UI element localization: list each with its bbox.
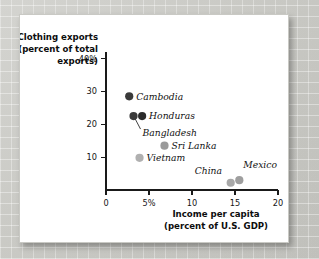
y-axis-title-line2: (percent of total (20, 44, 98, 54)
leader-line-bangladesh (135, 119, 141, 130)
data-point-labels: CambodiaBangladeshHondurasSri LankaVietn… (136, 91, 277, 176)
data-point-cambodia (125, 92, 133, 100)
x-tick-label: 0 (103, 198, 108, 208)
x-axis-ticks: 05%101520 (103, 190, 283, 208)
y-axis-title-line1: Clothing exports (20, 32, 98, 42)
y-axis-ticks: 10203040% (79, 54, 106, 163)
y-tick-label: 30 (87, 86, 97, 96)
data-point-china (227, 179, 235, 187)
data-point-label-vietnam: Vietnam (147, 152, 186, 163)
data-point-label-sri-lanka: Sri Lanka (171, 140, 216, 151)
scatter-plot: 10203040% 05%101520 CambodiaBangladeshHo… (20, 15, 288, 242)
data-point-vietnam (135, 154, 143, 162)
data-point-bangladesh (129, 112, 137, 120)
data-point-label-bangladesh: Bangladesh (142, 127, 197, 138)
data-point-label-china: China (195, 165, 222, 176)
data-point-label-mexico: Mexico (242, 159, 277, 170)
x-axis-title-line2: (percent of U.S. GDP) (164, 221, 268, 231)
data-point-sri-lanka (160, 142, 168, 150)
x-tick-label: 15 (230, 198, 240, 208)
data-point-label-honduras: Honduras (148, 110, 195, 121)
x-axis-title-line1: Income per capita (172, 209, 259, 219)
y-axis-title-line3: exports) (57, 56, 98, 66)
x-tick-label: 5% (143, 198, 156, 208)
data-point-mexico (235, 176, 243, 184)
data-point-label-cambodia: Cambodia (136, 91, 183, 102)
y-tick-label: 10 (87, 152, 97, 162)
leader-lines (135, 119, 141, 130)
figure-card: 10203040% 05%101520 CambodiaBangladeshHo… (19, 14, 289, 243)
x-tick-label: 20 (273, 198, 283, 208)
y-tick-label: 20 (87, 119, 97, 129)
x-tick-label: 10 (187, 198, 197, 208)
data-point-honduras (138, 112, 146, 120)
